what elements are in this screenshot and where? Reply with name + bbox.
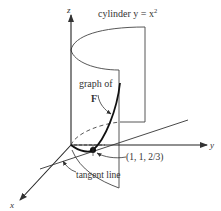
cylinder-label: cylinder y = x2 — [98, 7, 157, 19]
tangent-line-label: tangent line — [76, 170, 121, 180]
F-label: F — [91, 93, 97, 104]
y-axis-label: y — [209, 140, 214, 150]
tangent-leader-arrow — [63, 161, 76, 172]
F-leader-arrow — [98, 95, 111, 114]
x-axis — [20, 145, 71, 200]
x-axis-label: x — [9, 200, 14, 210]
point-leader-arrow — [97, 153, 126, 158]
graph-of-label: graph of — [79, 78, 113, 89]
cylinder-exponent: 2 — [154, 7, 157, 14]
cylinder-surface — [71, 27, 145, 188]
z-axis-label: z — [66, 5, 71, 15]
cylinder-tangent-diagram: z y x cylinder y = x2 graph of F (1, 1, … — [0, 0, 221, 211]
point-label: (1, 1, 2/3) — [126, 152, 163, 163]
